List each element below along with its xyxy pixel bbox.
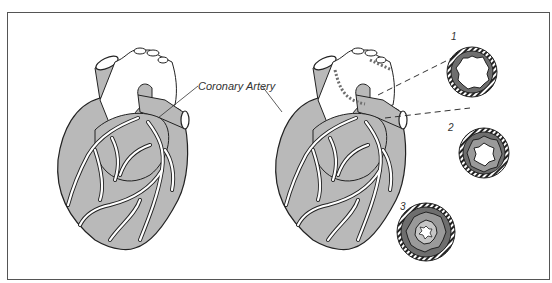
cross-section-3: 3 <box>397 201 455 261</box>
svg-text:3: 3 <box>400 201 406 212</box>
cross-section-1: 1 <box>447 31 497 97</box>
svg-text:1: 1 <box>451 31 457 42</box>
heart-diagram: Coronary Artery 1 2 3 <box>0 0 552 283</box>
cross-section-2: 2 <box>447 122 509 178</box>
healthy-heart <box>58 48 189 250</box>
svg-text:2: 2 <box>447 122 454 133</box>
diseased-heart <box>276 48 407 250</box>
